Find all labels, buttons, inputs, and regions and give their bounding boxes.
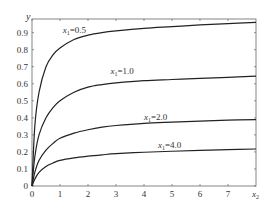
y-tick-label: 0.3 (17, 130, 29, 140)
y-tick-label: 0.1 (17, 164, 28, 174)
curve-x1=4.0 (32, 149, 256, 186)
x-tick-label: 4 (142, 189, 147, 199)
y-tick-label: 0.9 (17, 28, 29, 38)
y-tick-label: 0 (24, 181, 29, 191)
x-tick-label: 2 (86, 189, 91, 199)
y-tick-label: 0.6 (17, 79, 29, 89)
curve-x1=0.5 (32, 22, 256, 186)
svg-text:x2: x2 (251, 189, 259, 200)
y-tick-label: 0.7 (17, 62, 29, 72)
x-tick-label: 7 (226, 189, 231, 199)
x-tick-label: 5 (170, 189, 175, 199)
curve-label: x1=2.0 (143, 112, 168, 123)
y-tick-label: 0.2 (17, 147, 28, 157)
x-tick-label: 1 (58, 189, 63, 199)
curve-x1=1.0 (32, 76, 256, 186)
curve-label: x1=4.0 (157, 140, 182, 151)
chart: 0123456700.10.20.30.40.50.60.70.80.9 x1=… (0, 0, 271, 209)
curve-label: x1=0.5 (62, 25, 87, 36)
x-tick-label: 6 (198, 189, 203, 199)
y-tick-label: 0.8 (17, 45, 29, 55)
y-tick-label: 0.4 (17, 113, 29, 123)
curves (32, 22, 256, 186)
curve-label: x1=1.0 (109, 66, 134, 77)
y-tick-label: 0.5 (17, 96, 29, 106)
x-tick-label: 3 (114, 189, 119, 199)
x-axis-label: x2 (251, 189, 259, 200)
y-axis-label: y (25, 11, 31, 22)
x-tick-label: 0 (30, 189, 35, 199)
